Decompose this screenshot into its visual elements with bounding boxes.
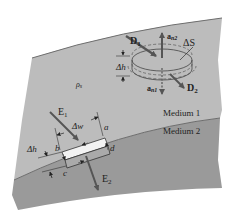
ds-label: ΔS [183, 37, 195, 48]
loop-dh-label: Δh [26, 144, 37, 154]
medium-1-label: Medium 1 [163, 108, 200, 118]
corner-c-label: c [63, 168, 67, 178]
corner-d-label: d [110, 143, 115, 153]
pillbox-dh-label: Δh [115, 62, 126, 72]
diagram-canvas: D1 an2 ΔS Δh an1 D2 ρs Medium 1 Medium 2… [0, 0, 235, 222]
medium-2-label: Medium 2 [163, 126, 200, 136]
dw-label: Δw [71, 121, 83, 131]
corner-a-label: a [104, 122, 109, 132]
corner-b-label: b [55, 143, 60, 153]
